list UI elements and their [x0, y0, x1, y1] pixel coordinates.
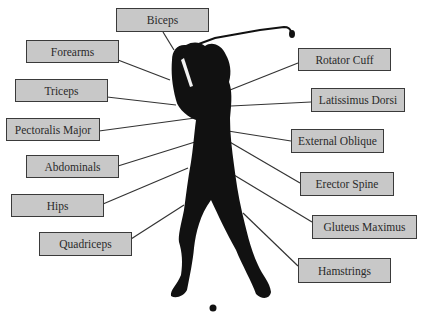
label-gluteus-maximus: Gluteus Maximus — [312, 215, 417, 239]
leader-line-pectoralis — [99, 118, 195, 131]
leader-line-biceps — [163, 32, 174, 50]
leader-line-external-oblique — [228, 131, 291, 141]
leader-line-rotator-cuff — [230, 63, 298, 90]
label-text: Hamstrings — [318, 265, 371, 277]
label-text: Biceps — [147, 14, 178, 26]
label-text: Gluteus Maximus — [323, 221, 405, 233]
leader-line-forearms — [118, 60, 170, 80]
leader-line-erector-spine — [228, 141, 300, 183]
label-text: Hips — [47, 200, 69, 212]
leader-line-abdominals — [118, 142, 195, 166]
label-triceps: Triceps — [15, 79, 108, 102]
label-abdominals: Abdominals — [26, 155, 119, 178]
label-text: Latissimus Dorsi — [319, 94, 397, 106]
label-text: Abdominals — [44, 161, 100, 173]
leader-line-quadriceps — [131, 205, 184, 239]
label-latissimus-dorsi: Latissimus Dorsi — [311, 88, 405, 112]
golf-club-head — [289, 30, 295, 38]
golf-ball-icon — [210, 305, 217, 312]
label-text: Pectoralis Major — [15, 124, 91, 136]
label-text: Quadriceps — [59, 238, 111, 250]
label-text: External Oblique — [298, 135, 377, 147]
label-text: Rotator Cuff — [315, 54, 373, 66]
label-rotator-cuff: Rotator Cuff — [298, 48, 391, 71]
golf-club-shaft — [196, 27, 292, 45]
label-erector-spine: Erector Spine — [300, 172, 394, 196]
label-quadriceps: Quadriceps — [39, 232, 132, 256]
label-biceps: Biceps — [116, 8, 209, 32]
label-text: Erector Spine — [316, 178, 379, 190]
label-pectoralis-major: Pectoralis Major — [6, 118, 100, 141]
golfer-silhouette — [171, 42, 271, 297]
label-hips: Hips — [11, 194, 104, 217]
label-text: Triceps — [44, 85, 78, 97]
leader-line-triceps — [107, 97, 176, 105]
label-hamstrings: Hamstrings — [298, 258, 391, 283]
leader-line-latissimus — [231, 102, 311, 106]
label-text: Forearms — [51, 46, 94, 58]
label-external-oblique: External Oblique — [291, 129, 384, 153]
label-forearms: Forearms — [26, 40, 119, 63]
